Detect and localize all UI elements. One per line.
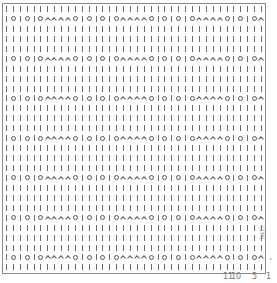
yarn-over-icon [224, 93, 231, 103]
knit-stitch-icon [237, 34, 244, 44]
knit-stitch-icon [175, 24, 182, 34]
knit-stitch-icon [230, 153, 237, 163]
knit-stitch-icon [224, 243, 231, 253]
knit-stitch-icon [210, 203, 217, 213]
knit-stitch-icon [79, 84, 86, 94]
knit-stitch-icon [3, 24, 10, 34]
decrease-icon [258, 173, 265, 183]
yarn-over-icon [161, 93, 168, 103]
knit-stitch-icon [31, 84, 38, 94]
knit-stitch-icon [168, 223, 175, 233]
knit-stitch-icon [161, 243, 168, 253]
knit-stitch-icon [189, 262, 196, 272]
knit-stitch-icon [148, 44, 155, 54]
knit-stitch-icon [120, 203, 127, 213]
decrease-icon [196, 14, 203, 24]
knit-stitch-icon [24, 203, 31, 213]
yarn-over-icon [72, 133, 79, 143]
knit-stitch-icon [17, 183, 24, 193]
knit-stitch-icon [37, 103, 44, 113]
knit-stitch-icon [230, 193, 237, 203]
knit-stitch-icon [217, 193, 224, 203]
decrease-icon [203, 93, 210, 103]
knit-stitch-icon [189, 44, 196, 54]
yarn-over-icon [24, 14, 31, 24]
knit-stitch-icon [189, 183, 196, 193]
knit-stitch-icon [17, 103, 24, 113]
knit-stitch-icon [24, 74, 31, 84]
knit-stitch-icon [51, 153, 58, 163]
knit-stitch-icon [217, 103, 224, 113]
knit-stitch-icon [17, 173, 24, 183]
knit-stitch-icon [189, 243, 196, 253]
knit-stitch-icon [10, 262, 17, 272]
knit-stitch-icon [203, 223, 210, 233]
knit-stitch-icon [203, 262, 210, 272]
yarn-over-icon [148, 14, 155, 24]
knit-stitch-icon [99, 64, 106, 74]
knit-stitch-icon [93, 84, 100, 94]
knit-stitch-icon [3, 183, 10, 193]
knit-stitch-icon [244, 173, 251, 183]
knit-stitch-icon [237, 262, 244, 272]
knit-stitch-icon [93, 113, 100, 123]
decrease-icon [141, 14, 148, 24]
yarn-over-icon [86, 93, 93, 103]
knit-stitch-icon [3, 54, 10, 64]
yarn-over-icon [175, 173, 182, 183]
knit-stitch-icon [127, 203, 134, 213]
yarn-over-icon [99, 133, 106, 143]
knit-stitch-icon [93, 223, 100, 233]
knit-stitch-icon [93, 243, 100, 253]
knit-stitch-icon [189, 103, 196, 113]
knit-stitch-icon [217, 74, 224, 84]
decrease-icon [127, 133, 134, 143]
knit-stitch-icon [58, 183, 65, 193]
knit-stitch-icon [106, 74, 113, 84]
decrease-icon [141, 213, 148, 223]
knit-stitch-icon [244, 193, 251, 203]
knit-stitch-icon [141, 84, 148, 94]
knit-stitch-icon [31, 14, 38, 24]
knit-stitch-icon [196, 103, 203, 113]
knit-stitch-icon [79, 93, 86, 103]
knit-stitch-icon [17, 133, 24, 143]
knit-stitch-icon [10, 233, 17, 243]
knit-stitch-icon [24, 103, 31, 113]
knit-stitch-icon [244, 84, 251, 94]
knit-stitch-icon [155, 163, 162, 173]
knit-stitch-icon [141, 44, 148, 54]
knit-stitch-icon [230, 243, 237, 253]
knit-stitch-icon [258, 44, 265, 54]
knit-stitch-icon [44, 64, 51, 74]
knit-stitch-icon [79, 252, 86, 262]
knit-stitch-icon [155, 24, 162, 34]
knit-stitch-icon [106, 34, 113, 44]
knit-stitch-icon [31, 133, 38, 143]
knit-stitch-icon [113, 34, 120, 44]
knit-stitch-icon [113, 113, 120, 123]
knit-stitch-icon [251, 44, 258, 54]
knit-stitch-icon [120, 243, 127, 253]
knit-stitch-icon [106, 84, 113, 94]
knit-stitch-icon [175, 243, 182, 253]
knit-stitch-icon [237, 74, 244, 84]
knit-stitch-icon [93, 74, 100, 84]
knit-stitch-icon [168, 24, 175, 34]
knit-stitch-icon [210, 262, 217, 272]
knit-stitch-icon [161, 193, 168, 203]
knit-stitch-icon [58, 44, 65, 54]
knit-stitch-icon [51, 143, 58, 153]
knit-stitch-icon [210, 223, 217, 233]
yarn-over-icon [86, 133, 93, 143]
knit-stitch-icon [175, 223, 182, 233]
knit-stitch-icon [134, 243, 141, 253]
knit-stitch-icon [113, 262, 120, 272]
knit-stitch-icon [244, 252, 251, 262]
knit-stitch-icon [93, 252, 100, 262]
knit-stitch-icon [189, 34, 196, 44]
knit-stitch-icon [251, 143, 258, 153]
yarn-over-icon [10, 93, 17, 103]
knit-stitch-icon [3, 173, 10, 183]
knit-stitch-icon [244, 103, 251, 113]
